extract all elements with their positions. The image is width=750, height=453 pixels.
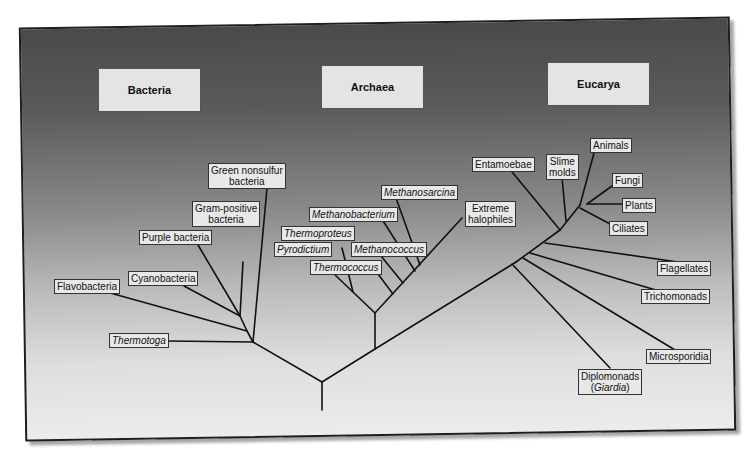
label-ciliates: Ciliates <box>609 221 648 236</box>
label-trichomonads: Trichomonads <box>641 289 710 304</box>
label-flavobacteria: Flavobacteria <box>54 279 120 294</box>
label-animals: Animals <box>590 138 632 153</box>
domain-box-bacteria: Bacteria <box>98 68 201 112</box>
label-fungi: Fungi <box>612 173 643 188</box>
label-gram-positive-bacteria: Gram-positive bacteria <box>192 201 260 227</box>
label-methanococcus: Methanococcus <box>351 242 427 257</box>
label-slime-molds: Slime molds <box>546 154 579 180</box>
domain-box-eucarya: Eucarya <box>547 62 650 106</box>
label-diplomonads: Diplomonads (Giardia) <box>578 369 642 395</box>
label-pyrodictium: Pyrodictium <box>274 242 332 257</box>
label-purple-bacteria: Purple bacteria <box>139 230 212 245</box>
label-thermoproteus: Thermoproteus <box>281 226 355 241</box>
domain-label-bacteria: Bacteria <box>128 84 171 96</box>
label-thermotoga: Thermotoga <box>109 333 169 348</box>
label-methanobacterium: Methanobacterium <box>309 207 398 222</box>
label-methanosarcina: Methanosarcina <box>381 185 458 200</box>
label-flagellates: Flagellates <box>657 261 711 276</box>
label-green-nonsulfur-bacteria: Green nonsulfur bacteria <box>208 163 286 189</box>
label-entamoebae: Entamoebae <box>472 157 535 172</box>
label-thermococcus: Thermococcus <box>310 260 382 275</box>
label-microsporidia: Microsporidia <box>646 349 711 364</box>
domain-label-archaea: Archaea <box>351 81 394 93</box>
domain-label-eucarya: Eucarya <box>577 78 620 90</box>
label-cyanobacteria: Cyanobacteria <box>128 271 198 286</box>
label-extreme-halophiles: Extreme halophiles <box>465 201 516 227</box>
label-plants: Plants <box>622 198 656 213</box>
label-giardia: Giardia <box>594 382 626 393</box>
domain-box-archaea: Archaea <box>321 65 424 109</box>
